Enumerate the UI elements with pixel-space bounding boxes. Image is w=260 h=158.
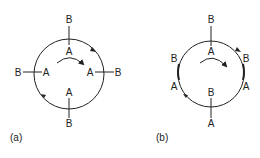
label-b-bottom-inner: B [208, 87, 215, 98]
label-b-bottom-outer: A [208, 118, 215, 129]
label-b-top-inner: A [208, 46, 215, 57]
label-b-left-top: B [171, 53, 178, 64]
figure-a: B A A B B A A B (a) [10, 14, 122, 143]
caption-a: (a) [10, 132, 22, 143]
rotation-arrow-a-icon [57, 58, 83, 64]
diagram-canvas: B A A B B A A B (a) B A B A B A [0, 0, 260, 158]
circle-arrow-topright-icon [235, 47, 241, 52]
label-b-right-top: B [243, 53, 250, 64]
label-a-right-inner: A [87, 67, 94, 78]
label-a-top-outer: B [66, 14, 73, 25]
caption-b: (b) [156, 132, 168, 143]
label-a-top-inner: A [66, 46, 73, 57]
label-b-left-bottom: A [171, 81, 178, 92]
label-a-left-inner: A [43, 67, 50, 78]
rotation-arrow-b-icon [200, 58, 226, 66]
label-a-bottom-inner: A [66, 87, 73, 98]
label-a-right-outer: B [115, 67, 122, 78]
circle-arrow-topright-icon [90, 47, 96, 52]
label-b-top-outer: B [208, 14, 215, 25]
label-a-left-outer: B [15, 67, 22, 78]
figure-b: B A B A B A B A (b) [156, 14, 250, 143]
label-a-bottom-outer: B [66, 118, 73, 129]
label-b-right-bottom: A [243, 81, 250, 92]
